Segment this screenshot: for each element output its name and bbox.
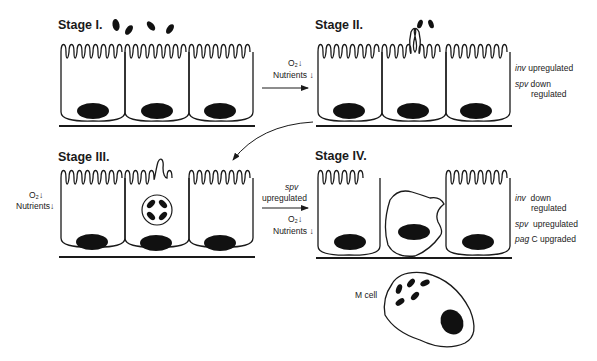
nucleus-icon <box>460 103 492 119</box>
transition-1-o2: O₂↓ <box>288 59 302 68</box>
nucleus-icon <box>397 103 429 119</box>
bacteria-icon <box>416 19 424 29</box>
vacuole-with-bacteria-icon <box>142 195 172 225</box>
nucleus-icon <box>141 103 173 119</box>
transition-3-nutrients: Nutrients ↓ <box>273 227 314 236</box>
nucleus-icon <box>140 235 172 251</box>
stage2-inv-annotation: inv upregulated <box>515 64 573 73</box>
stage3-nutrients: Nutrients↓ <box>16 202 54 211</box>
stage-3-epithelium <box>59 159 255 257</box>
transition-3-o2: O₂↓ <box>288 215 302 224</box>
m-cell <box>384 272 474 346</box>
m-cell-label: M cell <box>355 291 377 300</box>
stage-1-title: Stage I. <box>58 19 102 32</box>
nucleus-icon <box>333 103 365 119</box>
diagram-graphics <box>0 0 597 361</box>
stage2-spv-annotation: spv down <box>515 80 551 89</box>
stage-4-title: Stage IV. <box>315 150 367 163</box>
arrow-stage2-to-stage3 <box>233 122 313 160</box>
stage-4-epithelium <box>316 171 512 259</box>
stage4-spv-annotation: spv upregulated <box>515 220 578 229</box>
stage-1-epithelium <box>59 18 255 126</box>
stage-2-title: Stage II. <box>315 19 363 32</box>
bacteria-icon <box>112 18 176 36</box>
transition-3-gene-state: upregulated <box>262 194 307 203</box>
nucleus-icon <box>398 224 430 240</box>
stage-3-title: Stage III. <box>58 151 109 164</box>
stage4-inv-annotation: inv down <box>515 194 551 203</box>
transition-3-gene: spv <box>285 183 298 192</box>
salmonella-invasion-diagram: Stage I. Stage II. Stage III. Stage IV. … <box>0 0 597 361</box>
nucleus-icon <box>462 234 494 250</box>
nucleus-icon <box>334 234 366 250</box>
nucleus-icon <box>77 103 109 119</box>
transition-1-nutrients: Nutrients ↓ <box>273 71 314 80</box>
nucleus-icon <box>204 235 236 251</box>
stage-2-epithelium <box>316 19 512 126</box>
nucleus-icon <box>204 103 236 119</box>
stage3-o2: O₂↓ <box>29 191 43 200</box>
nucleus-icon <box>76 234 108 250</box>
stage4-pag-annotation: pag C upgraded <box>515 235 576 244</box>
stage2-spv-annotation-line2: regulated <box>531 90 566 99</box>
stage4-inv-annotation-line2: regulated <box>531 204 566 213</box>
bacteria-icon <box>427 19 435 29</box>
